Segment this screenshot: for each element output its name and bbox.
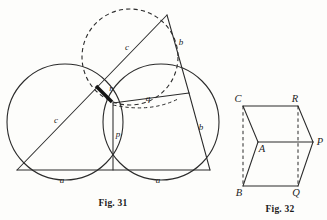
fig32-label-Q: Q — [292, 187, 300, 198]
fig31-label-c-lower: c — [54, 115, 58, 125]
fig32-edge-CA — [243, 106, 258, 142]
fig31-chord-q — [113, 93, 189, 103]
fig31-label-q: q — [146, 93, 151, 103]
fig32-caption: Fig. 32 — [266, 204, 295, 214]
fig-32-group: C R A P B Q Fig. 32 — [234, 93, 323, 214]
fig32-label-P: P — [316, 136, 324, 147]
fig32-label-A: A — [258, 143, 266, 154]
fig31-label-a-left: a — [60, 175, 65, 185]
fig32-label-R: R — [291, 93, 299, 104]
fig32-label-B: B — [236, 187, 243, 198]
figure-page: a a b b c c p q r Fig. 31 — [0, 0, 327, 220]
fig31-label-a-right: a — [156, 175, 161, 185]
fig31-hypotenuse-c — [17, 15, 167, 170]
fig-31-group: a a b b c c p q r Fig. 31 — [7, 9, 219, 208]
fig32-edge-RP — [298, 106, 313, 142]
fig31-label-r: r — [109, 83, 113, 93]
fig32-label-C: C — [234, 93, 242, 104]
fig32-edge-PQ — [298, 142, 313, 186]
fig32-edge-AB — [243, 142, 258, 186]
fig31-label-b-upper: b — [179, 37, 184, 47]
fig31-caption: Fig. 31 — [99, 198, 128, 208]
fig31-label-p: p — [115, 129, 121, 139]
fig31-top-dashed-circle — [82, 9, 178, 105]
fig31-side-b-upper — [167, 15, 189, 93]
fig31-label-c-upper: c — [125, 42, 129, 52]
fig31-label-b-lower: b — [199, 122, 204, 132]
figures-canvas: a a b b c c p q r Fig. 31 — [0, 0, 327, 220]
